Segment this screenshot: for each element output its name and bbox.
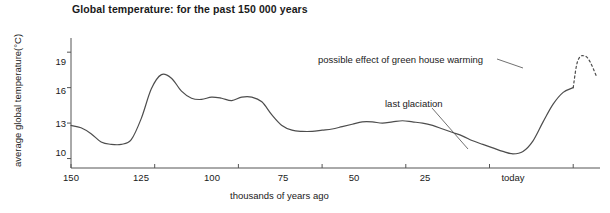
chart-plot-area [0,0,610,213]
x-tick-marks [71,164,573,168]
temperature-curve-solid [71,74,573,154]
leader-line-greenhouse [497,59,523,68]
y-tick-marks [67,52,71,158]
temperature-curve-projected-dashed [573,56,596,88]
temperature-chart-figure: Global temperature: for the past 150 000… [0,0,610,213]
leader-line-glaciation [432,108,468,149]
